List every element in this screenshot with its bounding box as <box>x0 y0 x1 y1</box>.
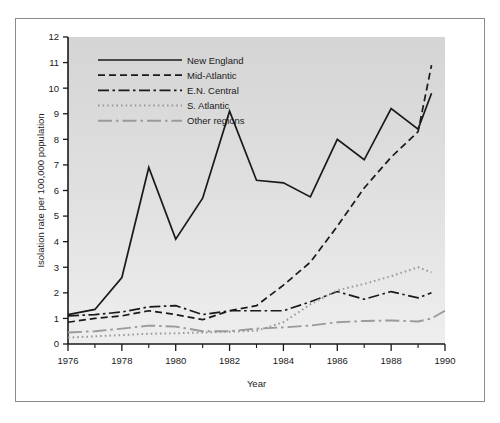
y-tick-label: 12 <box>48 31 59 42</box>
x-tick-label: 1984 <box>273 355 294 366</box>
y-axis-ticks: 0123456789101112 <box>48 31 68 349</box>
y-tick-label: 2 <box>54 287 59 298</box>
legend-label-new-england: New England <box>187 55 244 66</box>
legend-label-e-n-central: E.N. Central <box>187 85 239 96</box>
legend-label-mid-atlantic: Mid-Atlantic <box>187 70 237 81</box>
y-tick-label: 11 <box>49 57 59 68</box>
y-tick-label: 7 <box>54 159 59 170</box>
plot-background <box>68 37 445 344</box>
y-tick-label: 5 <box>54 210 59 221</box>
figure-canvas: 19761978198019821984198619881990 0123456… <box>0 0 500 423</box>
y-tick-label: 4 <box>54 236 59 247</box>
x-axis-ticks: 19761978198019821984198619881990 <box>57 344 455 366</box>
legend-label-s-atlantic: S. Atlantic <box>187 100 229 111</box>
y-tick-label: 8 <box>54 134 59 145</box>
x-tick-label: 1990 <box>434 355 455 366</box>
x-tick-label: 1988 <box>381 355 402 366</box>
y-tick-label: 0 <box>54 338 59 349</box>
y-axis-title: Isolation rate per 100,000 population <box>35 113 46 267</box>
y-tick-label: 9 <box>54 108 59 119</box>
legend-label-other-regions: Other regions <box>187 115 245 126</box>
y-tick-label: 1 <box>54 313 59 324</box>
y-tick-label: 10 <box>48 83 59 94</box>
y-tick-label: 6 <box>54 185 59 196</box>
x-axis-title: Year <box>247 378 266 389</box>
x-tick-label: 1980 <box>165 355 186 366</box>
x-tick-label: 1976 <box>57 355 78 366</box>
x-tick-label: 1978 <box>111 355 132 366</box>
line-chart: 19761978198019821984198619881990 0123456… <box>0 0 500 423</box>
y-tick-label: 3 <box>54 262 59 273</box>
x-tick-label: 1986 <box>327 355 348 366</box>
x-tick-label: 1982 <box>219 355 240 366</box>
